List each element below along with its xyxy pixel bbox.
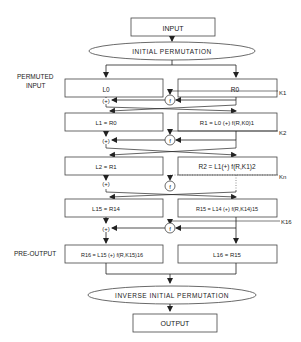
xor-icon: (+) [102, 138, 110, 144]
arrow-icon [176, 131, 236, 140]
svg-text:L16 = R15: L16 = R15 [213, 252, 242, 258]
key-k16-label: K16 [281, 219, 292, 225]
l0-box: L0 [65, 79, 163, 97]
svg-text:L0: L0 [102, 86, 110, 93]
pre-output-label: PRE-OUTPUT [14, 250, 56, 257]
arrow-icon [106, 144, 236, 155]
arrow-icon [172, 65, 236, 77]
key-kn-label: Kn [279, 174, 286, 180]
l2-box: L2 = R1 [65, 157, 163, 175]
r16-box: R16 = L15 (+) f(R,K15)16 [65, 245, 163, 263]
xor-icon: (+) [102, 226, 110, 232]
l15-box: L15 = R14 [65, 199, 163, 217]
r2-box: R2 = L1(+) f(R,K1)2 [178, 157, 277, 175]
arrow-icon [176, 217, 236, 228]
permuted-input-label-2: INPUT [26, 82, 46, 89]
svg-text:L1 = R0: L1 = R0 [95, 120, 117, 126]
initial-permutation-ellipse: INITIAL PERMUTATION [89, 42, 255, 60]
key-k1-label: K1 [279, 90, 287, 96]
svg-text:R16 = L15 (+) f(R,K15)16: R16 = L15 (+) f(R,K15)16 [81, 252, 143, 258]
input-box: INPUT [131, 18, 215, 36]
inverse-permutation-ellipse: INVERSE INITIAL PERMUTATION [88, 286, 256, 304]
svg-text:INPUT: INPUT [163, 25, 185, 32]
arrow-icon [106, 60, 172, 77]
arrow-icon [170, 175, 278, 180]
r1-box: R1 = L0 (+) f(R,K0)1 [178, 113, 277, 131]
permuted-input-label: PERMUTED [17, 73, 54, 80]
des-flowchart: INPUT INITIAL PERMUTATION PERMUTED INPUT… [0, 0, 301, 342]
f-function-icon: f [165, 223, 175, 233]
svg-text:INITIAL PERMUTATION: INITIAL PERMUTATION [132, 48, 211, 55]
f-function-icon: f [165, 181, 175, 191]
svg-text:L15 = R14: L15 = R14 [92, 206, 121, 212]
svg-text:R1 = L0 (+) f(R,K0)1: R1 = L0 (+) f(R,K0)1 [200, 120, 255, 126]
svg-text:OUTPUT: OUTPUT [161, 320, 191, 327]
svg-text:R2 = L1(+) f(R,K1)2: R2 = L1(+) f(R,K1)2 [198, 163, 255, 171]
svg-text:INVERSE INITIAL PERMUTATION: INVERSE INITIAL PERMUTATION [115, 292, 229, 299]
key-k2-label: K2 [279, 130, 287, 136]
arrow-icon [170, 221, 280, 224]
svg-text:R0: R0 [231, 86, 240, 93]
f-function-icon: f [165, 135, 175, 145]
f-function-icon: f [165, 95, 175, 105]
arrow-icon [176, 97, 236, 100]
arrow-icon [170, 131, 278, 134]
xor-icon: (+) [102, 181, 110, 187]
r0-box: R0 [178, 79, 277, 97]
svg-text:L2 = R1: L2 = R1 [95, 164, 117, 170]
svg-text:R15 = L14 (+) f(R,K14)15: R15 = L14 (+) f(R,K14)15 [196, 206, 258, 212]
xor-icon: (+) [102, 98, 110, 104]
l16-box: L16 = R15 [178, 245, 277, 263]
r15-box: R15 = L14 (+) f(R,K14)15 [178, 199, 277, 217]
output-box: OUTPUT [133, 314, 217, 332]
l1-box: L1 = R0 [65, 113, 163, 131]
